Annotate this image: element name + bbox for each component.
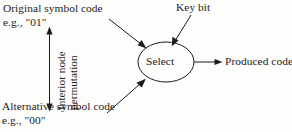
original-to-select-arrow: [109, 19, 147, 48]
label-original-symbol-code-line2: e.g., "01": [3, 16, 103, 30]
permutation-span-arrow: [46, 27, 52, 112]
label-key-bit: Key bit: [176, 1, 210, 15]
label-original-symbol-code: Original symbol code e.g., "01": [3, 2, 103, 29]
label-select-node: Select: [146, 55, 174, 69]
label-alternative-symbol-code-line2: e.g., "00": [2, 114, 115, 128]
label-interior-node-permutation-line2: permutation: [68, 28, 80, 110]
label-original-symbol-code-line1: Original symbol code: [3, 2, 103, 16]
label-produced-code: Produced code: [225, 55, 292, 69]
select-to-produced-arrow: [194, 59, 223, 65]
label-interior-node-permutation: Interior node permutation: [56, 28, 78, 110]
diagram-canvas: Original symbol code e.g., "01" Alternat…: [0, 0, 292, 132]
keybit-to-select-arrow: [172, 15, 191, 46]
